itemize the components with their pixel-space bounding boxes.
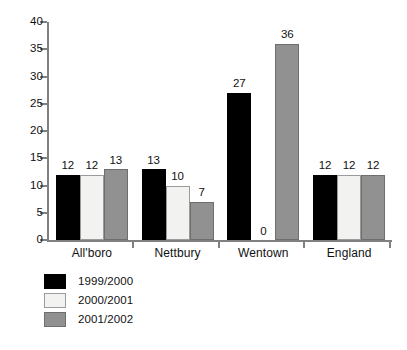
bar-slot[interactable]: 27 bbox=[227, 22, 251, 240]
bar-value-label: 12 bbox=[367, 160, 380, 172]
legend-item-label: 2000/2001 bbox=[78, 295, 133, 307]
legend-item-label: 2001/2002 bbox=[78, 314, 133, 326]
bar-value-label: 12 bbox=[319, 160, 332, 172]
x-axis-tick-mark bbox=[218, 241, 220, 248]
bar-slot[interactable]: 13 bbox=[104, 22, 128, 240]
x-axis-tick-mark bbox=[303, 241, 305, 248]
bar-value-label: 12 bbox=[61, 160, 74, 172]
bar-value-label: 13 bbox=[147, 155, 160, 167]
bar[interactable] bbox=[275, 44, 299, 240]
x-axis-group-label: England bbox=[327, 247, 372, 259]
bar-value-label: 27 bbox=[233, 78, 246, 90]
bar-slot[interactable]: 0 bbox=[251, 22, 275, 240]
bar[interactable] bbox=[104, 169, 128, 240]
y-axis-tick-label: 10 bbox=[30, 180, 43, 192]
bar-value-label: 12 bbox=[343, 160, 356, 172]
bar-group: 13107 bbox=[142, 22, 214, 240]
x-axis-group-label: All'boro bbox=[72, 247, 112, 259]
bar-group: 121212 bbox=[313, 22, 385, 240]
x-axis-tick-mark bbox=[389, 241, 391, 248]
x-axis-group-label: Wentown bbox=[238, 247, 289, 259]
bar-value-label: 12 bbox=[85, 160, 98, 172]
bar-slot[interactable]: 12 bbox=[80, 22, 104, 240]
bar-slot[interactable]: 12 bbox=[361, 22, 385, 240]
bar[interactable] bbox=[166, 186, 190, 241]
y-axis-tick-label: 30 bbox=[30, 71, 43, 83]
x-axis-tick-mark bbox=[132, 241, 134, 248]
legend-color-swatch bbox=[44, 293, 66, 308]
x-axis-line bbox=[47, 240, 392, 242]
legend-color-swatch bbox=[44, 274, 66, 289]
bar[interactable] bbox=[190, 202, 214, 240]
y-axis-tick-label: 25 bbox=[30, 98, 43, 110]
y-axis-tick-label: 20 bbox=[30, 125, 43, 137]
legend-item[interactable]: 1999/2000 bbox=[44, 272, 133, 291]
legend-item-label: 1999/2000 bbox=[78, 276, 133, 288]
bar-value-label: 36 bbox=[281, 29, 294, 41]
bar-value-label: 13 bbox=[109, 155, 122, 167]
bar[interactable] bbox=[337, 175, 361, 240]
bar[interactable] bbox=[313, 175, 337, 240]
bar[interactable] bbox=[56, 175, 80, 240]
y-axis-tick-label: 35 bbox=[30, 44, 43, 56]
bar-slot[interactable]: 36 bbox=[275, 22, 299, 240]
bar[interactable] bbox=[142, 169, 166, 240]
y-axis-tick-label: 5 bbox=[37, 207, 44, 219]
bar-value-label: 7 bbox=[198, 187, 205, 199]
legend-color-swatch bbox=[44, 312, 66, 327]
bar-value-label: 10 bbox=[171, 171, 184, 183]
bar-chart: 05101520253035401212131310727036121212 1… bbox=[0, 0, 407, 350]
bar-value-label: 0 bbox=[260, 226, 267, 238]
y-axis-tick-label: 15 bbox=[30, 153, 43, 165]
chart-legend: 1999/20002000/20012001/2002 bbox=[44, 272, 133, 329]
bar-slot[interactable]: 12 bbox=[56, 22, 80, 240]
bar[interactable] bbox=[80, 175, 104, 240]
bar-slot[interactable]: 10 bbox=[166, 22, 190, 240]
legend-item[interactable]: 2000/2001 bbox=[44, 291, 133, 310]
legend-item[interactable]: 2001/2002 bbox=[44, 310, 133, 329]
bar-slot[interactable]: 12 bbox=[313, 22, 337, 240]
x-axis-group-label: Nettbury bbox=[155, 247, 201, 259]
y-axis-tick-label: 40 bbox=[30, 16, 43, 28]
bar[interactable] bbox=[361, 175, 385, 240]
bar-group: 121213 bbox=[56, 22, 128, 240]
bar-slot[interactable]: 7 bbox=[190, 22, 214, 240]
bar-slot[interactable]: 13 bbox=[142, 22, 166, 240]
bar-group: 27036 bbox=[227, 22, 299, 240]
bar-slot[interactable]: 12 bbox=[337, 22, 361, 240]
plot-area: 05101520253035401212131310727036121212 bbox=[47, 22, 390, 240]
y-axis-tick-label: 0 bbox=[37, 234, 44, 246]
bar[interactable] bbox=[227, 93, 251, 240]
